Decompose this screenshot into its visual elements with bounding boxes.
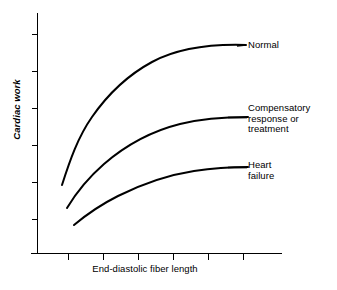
- cardiac-function-curve-figure: Normal Compensatoryresponse ortreatment …: [0, 0, 337, 290]
- x-axis-ticks: [69, 254, 244, 260]
- heart-failure-line-2: failure: [248, 170, 274, 181]
- compensatory-line-1: Compensatory: [248, 102, 310, 113]
- compensatory-line-2: response or: [248, 113, 299, 124]
- x-axis-label: End-diastolic fiber length: [0, 263, 290, 274]
- y-axis-ticks: [32, 35, 38, 220]
- series-label-compensatory: Compensatoryresponse ortreatment: [248, 103, 310, 135]
- leader-line-normal: [237, 45, 246, 46]
- series-label-normal: Normal: [248, 40, 279, 51]
- plot-area: [0, 0, 337, 290]
- y-axis-label: Cardiac work: [11, 74, 22, 146]
- heart-failure-line-1: Heart: [248, 159, 271, 170]
- curve-heart-failure: [74, 167, 248, 225]
- series-label-heart-failure: Heartfailure: [248, 160, 274, 181]
- curve-normal: [62, 45, 246, 185]
- compensatory-line-3: treatment: [248, 123, 289, 134]
- curve-compensatory: [67, 117, 248, 208]
